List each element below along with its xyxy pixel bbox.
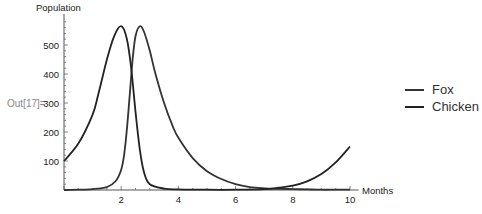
y-tick-label: 200 [43, 127, 59, 138]
x-tick-label: 2 [119, 194, 124, 205]
series-line-fox [64, 26, 350, 190]
legend-swatch-chicken [405, 106, 424, 108]
series-layer [64, 26, 350, 190]
legend-item-chicken: Chicken [405, 98, 479, 115]
legend-swatch-fox [405, 89, 424, 91]
legend-label-fox: Fox [432, 82, 454, 97]
y-tick-label: 300 [43, 98, 59, 109]
x-tick-label: 8 [290, 194, 295, 205]
x-tick-label: 6 [233, 194, 238, 205]
series-line-chicken [64, 26, 350, 190]
x-axis-label: Months [362, 185, 393, 196]
legend-item-fox: Fox [405, 81, 479, 98]
x-tick-label: 10 [345, 194, 356, 205]
y-tick-label: 500 [43, 40, 59, 51]
y-tick-label: 100 [43, 156, 59, 167]
y-tick-label: 400 [43, 69, 59, 80]
y-axis-label: Population [36, 2, 81, 13]
legend-label-chicken: Chicken [432, 99, 479, 114]
legend: Fox Chicken [405, 81, 479, 115]
x-tick-label: 4 [176, 194, 181, 205]
axes: 246810100200300400500 [43, 14, 358, 205]
